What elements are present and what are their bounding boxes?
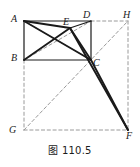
vertex-label-G: G — [9, 125, 16, 135]
vertex-label-F: F — [126, 131, 132, 141]
vertex-label-B: B — [11, 53, 17, 63]
geometry-figure: A B C D E F G H 图 110.5 — [0, 0, 140, 167]
segment-CF — [91, 60, 128, 130]
geometry-diagram — [0, 0, 140, 167]
vertex-label-D: D — [83, 10, 90, 20]
vertex-label-C: C — [93, 58, 100, 68]
vertex-label-A: A — [11, 14, 17, 24]
vertex-label-E: E — [63, 17, 69, 27]
figure-caption: 图 110.5 — [0, 145, 140, 157]
vertex-label-H: H — [123, 10, 130, 20]
